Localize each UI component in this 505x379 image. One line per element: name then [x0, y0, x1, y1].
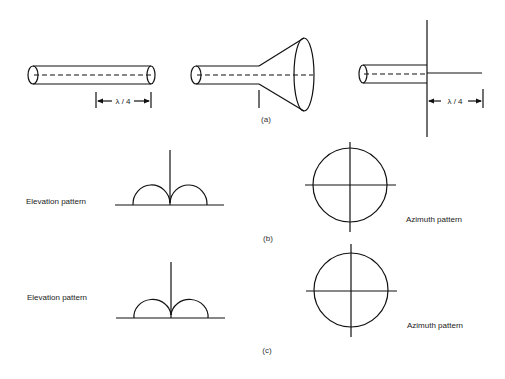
dimension-label-a1: λ / 4 — [115, 97, 131, 106]
elevation-pattern-c — [116, 262, 225, 318]
dimension-label-a3: λ / 4 — [447, 97, 463, 106]
azimuth-pattern-c — [306, 244, 397, 337]
elevation-label-b: Elevation pattern — [26, 197, 86, 206]
azimuth-label-c: Azimuth pattern — [407, 321, 463, 330]
elevation-label-c: Elevation pattern — [27, 293, 87, 302]
caption-c: (c) — [262, 346, 272, 355]
horn-antenna-drawing — [191, 38, 314, 111]
monopole-drawing — [359, 20, 483, 137]
coax-line-drawing — [28, 66, 155, 108]
caption-b: (b) — [263, 234, 273, 243]
antenna-figure: λ / 4 (a) λ / 4 Elevation pattern — [0, 0, 505, 379]
azimuth-pattern-b — [305, 142, 396, 232]
elevation-pattern-b — [115, 150, 224, 205]
azimuth-label-b: Azimuth pattern — [406, 215, 462, 224]
caption-a: (a) — [261, 115, 271, 124]
